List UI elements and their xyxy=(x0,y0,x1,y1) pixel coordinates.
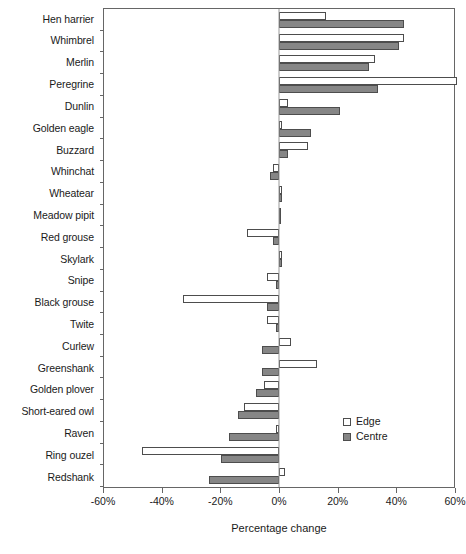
bar-row-golden-eagle xyxy=(104,118,454,140)
legend-item-edge: Edge xyxy=(343,414,388,429)
bar-row-wheatear xyxy=(104,183,454,205)
bar-row-black-grouse xyxy=(104,292,454,314)
category-label-buzzard: Buzzard xyxy=(0,139,99,161)
x-tick xyxy=(162,488,163,493)
bar-wheatear-edge xyxy=(279,186,282,194)
bar-row-twite xyxy=(104,313,454,335)
bar-skylark-edge xyxy=(279,251,282,259)
category-label-whimbrel: Whimbrel xyxy=(0,30,99,52)
bar-red-grouse-edge xyxy=(247,229,279,237)
bar-row-buzzard xyxy=(104,139,454,161)
bar-snipe-centre xyxy=(276,281,279,289)
bar-hen-harrier-centre xyxy=(279,20,404,28)
category-axis: Hen harrierWhimbrelMerlinPeregrineDunlin… xyxy=(0,8,99,488)
x-tick xyxy=(396,488,397,493)
x-tick xyxy=(338,488,339,493)
category-label-raven: Raven xyxy=(0,422,99,444)
bar-row-greenshank xyxy=(104,357,454,379)
x-tick-label: -60% xyxy=(91,495,116,507)
bar-twite-centre xyxy=(276,324,279,332)
x-tick xyxy=(220,488,221,493)
bar-greenshank-centre xyxy=(262,368,280,376)
plot-rows xyxy=(104,9,454,487)
bar-short-eared-owl-edge xyxy=(244,403,279,411)
bar-hen-harrier-edge xyxy=(279,12,326,20)
bar-buzzard-centre xyxy=(279,150,288,158)
bar-golden-plover-edge xyxy=(264,381,279,389)
bar-row-whimbrel xyxy=(104,31,454,53)
bar-golden-plover-centre xyxy=(256,389,279,397)
bar-raven-edge xyxy=(276,425,279,433)
bar-row-peregrine xyxy=(104,74,454,96)
bar-red-grouse-centre xyxy=(273,237,279,245)
category-label-greenshank: Greenshank xyxy=(0,357,99,379)
bar-skylark-centre xyxy=(279,259,282,267)
x-tick-label: 20% xyxy=(327,495,348,507)
category-label-red-grouse: Red grouse xyxy=(0,226,99,248)
bar-ring-ouzel-centre xyxy=(221,455,279,463)
bar-curlew-edge xyxy=(279,338,291,346)
x-tick-label: 0% xyxy=(271,495,286,507)
bar-row-short-eared-owl xyxy=(104,400,454,422)
bar-row-hen-harrier xyxy=(104,9,454,31)
category-label-meadow-pipit: Meadow pipit xyxy=(0,204,99,226)
bar-row-skylark xyxy=(104,248,454,270)
bar-short-eared-owl-centre xyxy=(238,411,279,419)
legend-label: Centre xyxy=(356,429,388,444)
legend-label: Edge xyxy=(356,414,381,429)
x-axis-title: Percentage change xyxy=(103,522,455,534)
bar-twite-edge xyxy=(267,316,279,324)
category-label-dunlin: Dunlin xyxy=(0,95,99,117)
bar-golden-eagle-edge xyxy=(279,121,282,129)
bar-dunlin-edge xyxy=(279,99,288,107)
bar-black-grouse-centre xyxy=(267,303,279,311)
bar-snipe-edge xyxy=(267,273,279,281)
bar-black-grouse-edge xyxy=(183,295,279,303)
bar-ring-ouzel-edge xyxy=(142,447,279,455)
bar-merlin-centre xyxy=(279,63,369,71)
x-tick xyxy=(103,488,104,493)
bar-whimbrel-centre xyxy=(279,42,399,50)
category-label-golden-eagle: Golden eagle xyxy=(0,117,99,139)
category-label-black-grouse: Black grouse xyxy=(0,292,99,314)
bar-greenshank-edge xyxy=(279,360,317,368)
category-label-merlin: Merlin xyxy=(0,52,99,74)
legend-swatch-edge xyxy=(343,418,351,426)
bar-merlin-edge xyxy=(279,55,375,63)
category-tick xyxy=(100,486,104,487)
category-label-redshank: Redshank xyxy=(0,466,99,488)
x-tick xyxy=(279,488,280,493)
bar-whinchat-edge xyxy=(273,164,279,172)
chart-legend: EdgeCentre xyxy=(343,414,388,444)
bar-dunlin-centre xyxy=(279,107,340,115)
x-tick-label: 40% xyxy=(386,495,407,507)
bar-row-dunlin xyxy=(104,96,454,118)
bar-whimbrel-edge xyxy=(279,34,404,42)
category-label-curlew: Curlew xyxy=(0,335,99,357)
bar-redshank-centre xyxy=(209,476,279,484)
bar-curlew-centre xyxy=(262,346,280,354)
category-label-whinchat: Whinchat xyxy=(0,161,99,183)
bar-meadow-pipit-edge xyxy=(279,208,281,216)
x-tick-label: -40% xyxy=(149,495,174,507)
category-label-ring-ouzel: Ring ouzel xyxy=(0,444,99,466)
bar-row-golden-plover xyxy=(104,378,454,400)
x-tick-label: -20% xyxy=(208,495,233,507)
bar-golden-eagle-centre xyxy=(279,129,311,137)
bar-row-red-grouse xyxy=(104,226,454,248)
bar-peregrine-edge xyxy=(279,77,457,85)
bar-row-curlew xyxy=(104,335,454,357)
legend-swatch-centre xyxy=(343,433,351,441)
bar-row-merlin xyxy=(104,52,454,74)
bar-row-whinchat xyxy=(104,161,454,183)
category-label-skylark: Skylark xyxy=(0,248,99,270)
bar-wheatear-centre xyxy=(279,194,282,202)
bar-peregrine-centre xyxy=(279,85,378,93)
legend-item-centre: Centre xyxy=(343,429,388,444)
category-label-twite: Twite xyxy=(0,313,99,335)
category-label-peregrine: Peregrine xyxy=(0,73,99,95)
bar-meadow-pipit-centre xyxy=(279,216,281,224)
bar-row-raven xyxy=(104,422,454,444)
bar-redshank-edge xyxy=(279,468,285,476)
category-label-hen-harrier: Hen harrier xyxy=(0,8,99,30)
